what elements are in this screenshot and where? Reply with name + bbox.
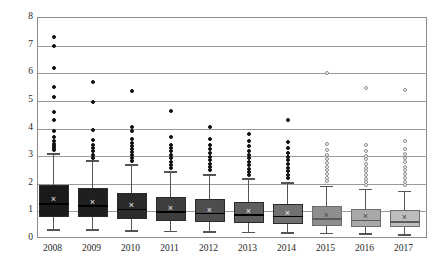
outlier-point xyxy=(325,179,329,183)
y-tick-label: 0 xyxy=(7,233,33,243)
outlier-point xyxy=(52,110,56,114)
outlier-point xyxy=(91,138,95,142)
outlier-point xyxy=(247,149,251,153)
gridline xyxy=(38,156,426,157)
whisker-upper xyxy=(326,186,327,206)
plot-area: ×××××××××× xyxy=(37,17,427,238)
outlier-point xyxy=(91,100,95,104)
whisker-cap-upper xyxy=(398,191,411,193)
outlier-point xyxy=(52,85,56,89)
whisker-lower xyxy=(404,227,405,234)
outlier-point xyxy=(91,128,95,132)
y-tick-label: 2 xyxy=(7,178,33,188)
x-tick-label: 2015 xyxy=(304,243,348,253)
outlier-point xyxy=(52,66,56,70)
whisker-lower xyxy=(326,226,327,233)
outlier-point xyxy=(325,148,329,152)
outlier-point xyxy=(247,144,251,148)
whisker-lower xyxy=(287,224,288,232)
whisker-upper xyxy=(404,191,405,210)
gridline xyxy=(38,46,426,47)
y-tick-label: 8 xyxy=(7,12,33,22)
whisker-cap-lower xyxy=(86,229,99,231)
outlier-point xyxy=(208,125,212,129)
x-tick-label: 2017 xyxy=(382,243,426,253)
mean-marker: × xyxy=(363,212,368,221)
x-tick-label: 2008 xyxy=(31,243,75,253)
outlier-point xyxy=(286,176,290,180)
y-tick-label: 4 xyxy=(7,123,33,133)
whisker-lower xyxy=(209,222,210,231)
outlier-point xyxy=(247,132,251,136)
whisker-upper xyxy=(248,178,249,201)
outlier-point xyxy=(208,168,212,172)
whisker-upper xyxy=(92,160,93,188)
outlier-point xyxy=(91,156,95,160)
outlier-point xyxy=(364,157,368,161)
whisker-cap-upper xyxy=(47,153,60,155)
y-tick-label: 5 xyxy=(7,95,33,105)
whisker-lower xyxy=(365,227,366,234)
outlier-point xyxy=(52,95,56,99)
whisker-cap-lower xyxy=(398,234,411,236)
mean-marker: × xyxy=(207,205,212,214)
mean-marker: × xyxy=(324,210,329,219)
outlier-point xyxy=(208,137,212,141)
whisker-cap-upper xyxy=(86,160,99,162)
whisker-cap-lower xyxy=(359,233,372,235)
x-tick-label: 2016 xyxy=(343,243,387,253)
whisker-lower xyxy=(248,223,249,232)
whisker-cap-lower xyxy=(320,233,333,235)
outlier-point xyxy=(286,140,290,144)
x-axis: 2008200920102011201220132014201520162017 xyxy=(0,243,445,263)
x-tick-label: 2011 xyxy=(148,243,192,253)
whisker-upper xyxy=(209,174,210,199)
gridline xyxy=(38,129,426,130)
outlier-point xyxy=(325,71,329,75)
outlier-point xyxy=(364,183,368,187)
outlier-point xyxy=(52,35,56,39)
whisker-cap-lower xyxy=(47,229,60,231)
outlier-point xyxy=(52,148,56,152)
outlier-point xyxy=(52,118,56,122)
whisker-lower xyxy=(53,217,54,229)
whisker-cap-upper xyxy=(281,182,294,184)
whisker-upper xyxy=(53,153,54,185)
mean-marker: × xyxy=(129,201,134,210)
outlier-point xyxy=(403,88,407,92)
boxplot-chart: ×××××××××× 012345678 2008200920102011201… xyxy=(0,0,445,276)
whisker-cap-upper xyxy=(125,164,138,166)
x-tick-label: 2010 xyxy=(109,243,153,253)
outlier-point xyxy=(130,159,134,163)
x-tick-label: 2012 xyxy=(187,243,231,253)
whisker-cap-upper xyxy=(359,189,372,191)
y-tick-label: 6 xyxy=(7,68,33,78)
y-tick-label: 3 xyxy=(7,150,33,160)
outlier-point xyxy=(403,139,407,143)
outlier-point xyxy=(364,143,368,147)
outlier-point xyxy=(364,149,368,153)
whisker-upper xyxy=(365,189,366,209)
whisker-lower xyxy=(92,217,93,229)
whisker-cap-lower xyxy=(281,232,294,234)
x-tick-label: 2009 xyxy=(70,243,114,253)
whisker-lower xyxy=(131,219,132,230)
outlier-point xyxy=(286,118,290,122)
y-axis: 012345678 xyxy=(0,0,33,276)
outlier-point xyxy=(364,86,368,90)
outlier-point xyxy=(403,160,407,164)
whisker-cap-lower xyxy=(164,231,177,233)
mean-marker: × xyxy=(168,204,173,213)
gridline xyxy=(38,73,426,74)
whisker-cap-upper xyxy=(242,178,255,180)
whisker-cap-lower xyxy=(242,232,255,234)
mean-marker: × xyxy=(402,213,407,222)
y-tick-label: 1 xyxy=(7,206,33,216)
outlier-point xyxy=(169,109,173,113)
whisker-upper xyxy=(131,164,132,192)
y-tick-label: 7 xyxy=(7,40,33,50)
outlier-point xyxy=(169,166,173,170)
outlier-point xyxy=(52,44,56,48)
mean-marker: × xyxy=(90,197,95,206)
whisker-upper xyxy=(170,171,171,197)
